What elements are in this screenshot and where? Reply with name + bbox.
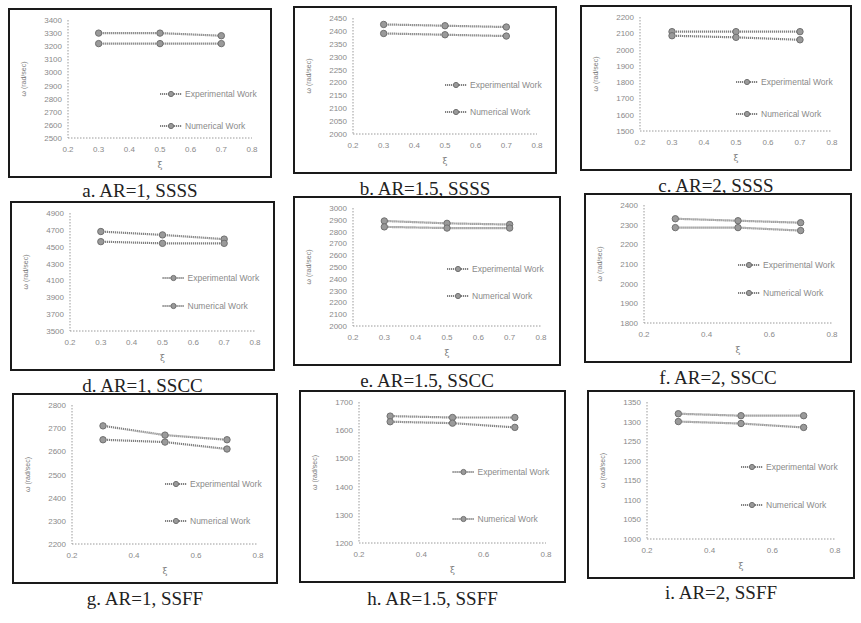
data-point-marker bbox=[738, 413, 744, 419]
x-tick-label: 0.2 bbox=[62, 145, 74, 154]
x-axis-label: ξ bbox=[736, 345, 741, 355]
data-point-marker bbox=[387, 419, 393, 425]
line-chart: 22002300240025002600270028000.20.40.60.8… bbox=[14, 395, 275, 581]
data-point-marker bbox=[159, 232, 165, 238]
y-tick-label: 2300 bbox=[48, 517, 66, 526]
x-tick-label: 0.8 bbox=[535, 333, 547, 342]
legend-label: Numerical Work bbox=[478, 514, 539, 524]
y-axis-label: ω (rad/sec) bbox=[311, 455, 319, 490]
x-tick-label: 0.4 bbox=[698, 138, 710, 147]
y-tick-label: 1200 bbox=[335, 539, 353, 548]
line-chart: 1200130014001500160017000.20.40.60.8ω (r… bbox=[301, 392, 563, 580]
y-tick-label: 2900 bbox=[329, 216, 347, 225]
data-point-marker bbox=[797, 220, 803, 226]
legend-label: Numerical Work bbox=[763, 288, 824, 298]
x-axis-label: ξ bbox=[739, 561, 744, 571]
data-point-marker bbox=[449, 420, 455, 426]
data-point-marker bbox=[157, 30, 163, 36]
data-point-marker bbox=[380, 30, 386, 36]
x-tick-label: 0.2 bbox=[641, 546, 653, 555]
y-tick-label: 2700 bbox=[48, 424, 66, 433]
data-point-marker bbox=[442, 23, 448, 29]
y-axis-label: ω (rad/sec) bbox=[305, 58, 313, 93]
legend-marker-icon bbox=[453, 82, 458, 87]
x-tick-label: 0.4 bbox=[126, 338, 138, 347]
x-tick-label: 0.8 bbox=[246, 145, 258, 154]
y-tick-label: 2900 bbox=[44, 82, 62, 91]
x-tick-label: 0.5 bbox=[439, 141, 451, 150]
y-tick-label: 1300 bbox=[623, 418, 641, 427]
y-tick-label: 2300 bbox=[620, 221, 638, 230]
chart-caption: e. AR=1.5, SSCC bbox=[293, 370, 561, 392]
y-axis-label: ω (rad/sec) bbox=[20, 61, 28, 96]
x-axis-label: ξ bbox=[734, 153, 739, 163]
y-tick-label: 2000 bbox=[620, 280, 638, 289]
line-chart: 18001900200021002200230024000.20.40.60.8… bbox=[586, 195, 849, 360]
legend-marker-icon bbox=[749, 502, 754, 507]
legend-label: Numerical Work bbox=[472, 291, 533, 301]
data-point-marker bbox=[162, 439, 168, 445]
data-point-marker bbox=[100, 437, 106, 443]
y-tick-label: 2050 bbox=[329, 117, 347, 126]
data-point-marker bbox=[218, 40, 224, 46]
data-point-marker bbox=[224, 437, 230, 443]
legend-marker-icon bbox=[455, 266, 460, 271]
legend-marker-icon bbox=[168, 91, 173, 96]
y-tick-label: 4500 bbox=[46, 243, 64, 252]
data-point-marker bbox=[98, 238, 104, 244]
data-point-marker bbox=[672, 224, 678, 230]
line-chart: 100010501100115012001250130013500.20.40.… bbox=[589, 392, 852, 576]
x-tick-label: 0.8 bbox=[540, 550, 552, 559]
x-tick-label: 0.7 bbox=[504, 333, 516, 342]
y-tick-label: 2100 bbox=[620, 260, 638, 269]
data-point-marker bbox=[381, 224, 387, 230]
y-tick-label: 1350 bbox=[623, 398, 641, 407]
x-tick-label: 0.6 bbox=[478, 550, 490, 559]
x-tick-label: 0.6 bbox=[185, 145, 197, 154]
x-axis-label: ξ bbox=[158, 160, 163, 170]
y-tick-label: 2300 bbox=[329, 287, 347, 296]
y-tick-label: 2200 bbox=[620, 240, 638, 249]
y-tick-label: 3900 bbox=[46, 293, 64, 302]
x-tick-label: 0.2 bbox=[66, 551, 78, 560]
x-tick-label: 0.6 bbox=[473, 333, 485, 342]
data-point-marker bbox=[503, 33, 509, 39]
x-tick-label: 0.5 bbox=[157, 338, 169, 347]
legend-marker-icon bbox=[171, 303, 176, 308]
x-tick-label: 0.8 bbox=[826, 138, 838, 147]
y-tick-label: 2200 bbox=[48, 540, 66, 549]
legend-marker-icon bbox=[461, 516, 466, 521]
y-axis-label: ω (rad/sec) bbox=[24, 457, 32, 492]
x-tick-label: 0.2 bbox=[347, 141, 359, 150]
x-tick-label: 0.5 bbox=[154, 145, 166, 154]
line-chart: 2000210022002300240025002600270028002900… bbox=[295, 198, 558, 363]
y-tick-label: 2800 bbox=[329, 228, 347, 237]
legend-label: Experimental Work bbox=[190, 479, 262, 489]
y-tick-label: 2150 bbox=[329, 91, 347, 100]
x-tick-label: 0.6 bbox=[470, 141, 482, 150]
x-tick-label: 0.4 bbox=[409, 141, 421, 150]
data-point-marker bbox=[157, 40, 163, 46]
y-tick-label: 2400 bbox=[329, 275, 347, 284]
data-point-marker bbox=[672, 216, 678, 222]
legend-label: Experimental Work bbox=[761, 77, 833, 87]
legend-marker-icon bbox=[455, 293, 460, 298]
data-point-marker bbox=[800, 413, 806, 419]
y-tick-label: 3000 bbox=[329, 204, 347, 213]
x-tick-label: 0.7 bbox=[219, 338, 231, 347]
x-tick-label: 0.6 bbox=[190, 551, 202, 560]
x-tick-label: 0.8 bbox=[829, 546, 841, 555]
x-tick-label: 0.2 bbox=[353, 550, 365, 559]
y-tick-label: 1700 bbox=[616, 94, 634, 103]
x-tick-label: 0.7 bbox=[794, 138, 806, 147]
x-tick-label: 0.6 bbox=[762, 138, 774, 147]
y-tick-label: 3300 bbox=[44, 29, 62, 38]
line-chart: 350037003900410043004500470049000.20.30.… bbox=[12, 203, 272, 368]
x-tick-label: 0.3 bbox=[95, 338, 107, 347]
x-tick-label: 0.7 bbox=[501, 141, 513, 150]
line-chart: 2000205021002150220022502300235024002450… bbox=[295, 8, 554, 171]
x-axis-label: ξ bbox=[450, 565, 455, 575]
data-point-marker bbox=[735, 224, 741, 230]
data-point-marker bbox=[512, 414, 518, 420]
data-point-marker bbox=[503, 24, 509, 30]
